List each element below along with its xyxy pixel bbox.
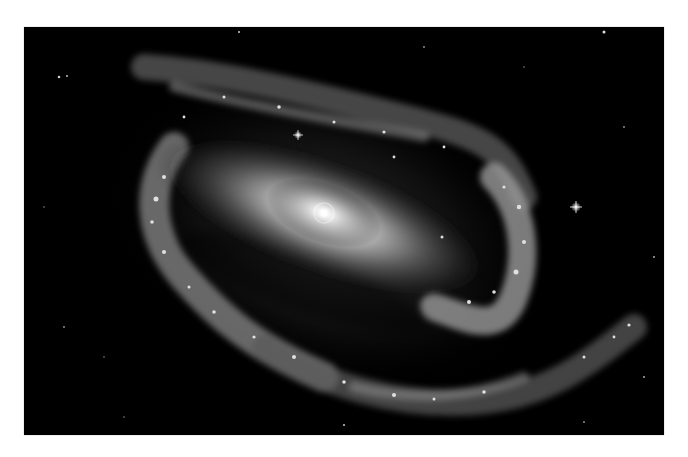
nucleus <box>320 209 328 217</box>
galaxy-photo <box>24 27 664 435</box>
galaxy-illustration <box>24 27 664 435</box>
